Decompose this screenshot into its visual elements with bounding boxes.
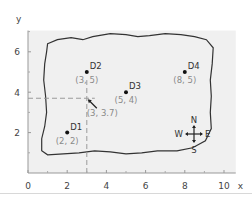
point-coord-label: (5, 4) (115, 95, 138, 105)
point-marker (183, 70, 187, 74)
reference-label: (3, 3.7) (87, 108, 118, 118)
point-name: D1 (70, 122, 82, 132)
x-tick-label: 4 (104, 181, 110, 191)
x-tick-label: 8 (182, 181, 188, 191)
compass-s: S (191, 145, 196, 155)
point-marker (65, 131, 69, 135)
divider (0, 193, 252, 194)
point-coord-label: (3, 5) (75, 75, 98, 85)
point-marker (124, 90, 128, 94)
x-axis-label: x (238, 181, 244, 191)
y-tick-label: 2 (14, 128, 20, 138)
y-tick-label: 4 (14, 88, 20, 98)
point-marker (85, 70, 89, 74)
y-axis-label: y (16, 14, 22, 24)
compass-w: W (175, 129, 184, 139)
map-diagram: (3, 3.7) 0246810246xy D1(2, 2)D2(3, 5)D3… (0, 0, 252, 197)
point-coord-label: (2, 2) (56, 136, 79, 146)
compass-n: N (191, 115, 197, 125)
point-name: D4 (188, 61, 200, 71)
point-name: D3 (129, 81, 141, 91)
x-tick-label: 0 (25, 181, 31, 191)
x-tick-label: 2 (64, 181, 70, 191)
y-tick-label: 6 (14, 47, 20, 57)
compass-e: E (205, 129, 210, 139)
point-name: D2 (90, 61, 102, 71)
x-tick-label: 10 (218, 181, 230, 191)
x-tick-label: 6 (143, 181, 149, 191)
point-coord-label: (8, 5) (173, 75, 196, 85)
